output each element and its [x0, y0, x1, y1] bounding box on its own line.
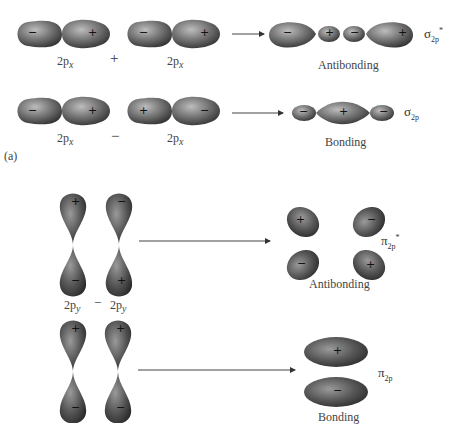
phase-sign: − [28, 26, 37, 39]
antibonding-label: Antibonding [309, 277, 370, 292]
phase-sign: + [71, 195, 80, 208]
phase-sign: + [333, 344, 342, 357]
orbital-label-2px: 2px [167, 54, 183, 70]
phase-sign: − [139, 26, 148, 39]
phase-sign: − [333, 384, 342, 397]
phase-sign: + [116, 322, 125, 335]
plus-operator: + [110, 50, 118, 67]
phase-sign: + [139, 104, 148, 117]
orbital-label-2py: 2py [64, 298, 80, 314]
phase-sign: + [117, 274, 126, 287]
phase-sign: + [325, 26, 334, 39]
orbital-label-2px: 2px [167, 131, 183, 147]
sigma-2p-symbol: σ2p [404, 104, 419, 122]
phase-sign: + [398, 26, 407, 39]
phase-sign: − [116, 401, 125, 414]
phase-sign: + [366, 258, 375, 271]
orbital-label-2px: 2px [57, 131, 73, 147]
pi-2p-star-symbol: π2p* [381, 233, 400, 251]
minus-operator: − [111, 128, 119, 145]
phase-sign: − [350, 26, 359, 39]
phase-sign: − [71, 401, 80, 414]
phase-sign: − [200, 104, 209, 117]
sigma-2p-star-symbol: σ2p* [424, 26, 443, 44]
phase-sign: − [379, 105, 388, 118]
orbital-label-2py: 2py [110, 298, 126, 314]
phase-sign: + [88, 26, 97, 39]
phase-sign: + [339, 105, 348, 118]
phase-sign: − [367, 213, 376, 226]
phase-sign: − [299, 105, 308, 118]
phase-sign: + [71, 322, 80, 335]
bonding-label: Bonding [325, 135, 366, 150]
bonding-label: Bonding [318, 410, 359, 425]
phase-sign: + [296, 213, 305, 226]
phase-sign: + [200, 26, 209, 39]
pi-2p-symbol: π2p [378, 365, 393, 383]
panel-label: (a) [4, 149, 17, 164]
phase-sign: − [117, 195, 126, 208]
phase-sign: − [297, 257, 306, 270]
minus-operator: − [94, 295, 101, 311]
antibonding-label: Antibonding [318, 58, 379, 73]
phase-sign: − [71, 274, 80, 287]
phase-sign: − [283, 26, 292, 39]
orbital-label-2px: 2px [57, 54, 73, 70]
phase-sign: + [88, 104, 97, 117]
phase-sign: − [28, 104, 37, 117]
